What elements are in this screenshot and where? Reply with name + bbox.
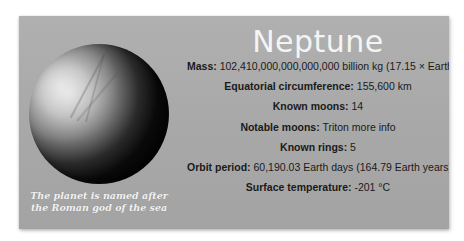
- fact-value: 14: [349, 100, 364, 112]
- fact-notable-moons: Notable moons: Triton more info: [187, 121, 449, 134]
- fact-label: Notable moons:: [240, 121, 319, 133]
- fact-label: Equatorial circumference:: [224, 80, 354, 92]
- fact-known-rings: Known rings: 5: [187, 141, 449, 154]
- fact-value: 102,410,000,000,000,000 billion kg (17.1…: [217, 60, 449, 72]
- caption-line-2: the Roman god of the sea: [19, 202, 179, 214]
- fact-label: Orbit period:: [187, 161, 251, 173]
- planet-caption: The planet is named after the Roman god …: [19, 190, 179, 214]
- planet-image: [29, 44, 169, 184]
- fact-value: 155,600 km: [354, 80, 412, 92]
- caption-line-1: The planet is named after: [19, 190, 179, 202]
- fact-value: Triton: [320, 121, 352, 133]
- planet-title: Neptune: [187, 24, 449, 60]
- planet-card: The planet is named after the Roman god …: [19, 16, 449, 229]
- fact-label: Known moons:: [273, 100, 349, 112]
- more-info-link[interactable]: more info: [352, 121, 396, 133]
- fact-label: Known rings:: [280, 141, 347, 153]
- fact-orbit-period: Orbit period: 60,190.03 Earth days (164.…: [187, 161, 449, 174]
- fact-label: Surface temperature:: [246, 181, 352, 193]
- fact-value: 60,190.03 Earth days (164.79 Earth years…: [251, 161, 449, 173]
- planet-info: Neptune Mass: 102,410,000,000,000,000 bi…: [187, 16, 449, 201]
- fact-circumference: Equatorial circumference: 155,600 km: [187, 80, 449, 93]
- fact-mass: Mass: 102,410,000,000,000,000 billion kg…: [187, 60, 449, 73]
- fact-value: -201 °C: [351, 181, 390, 193]
- fact-known-moons: Known moons: 14: [187, 100, 449, 113]
- fact-label: Mass:: [187, 60, 217, 72]
- fact-value: 5: [347, 141, 356, 153]
- fact-surface-temperature: Surface temperature: -201 °C: [187, 181, 449, 194]
